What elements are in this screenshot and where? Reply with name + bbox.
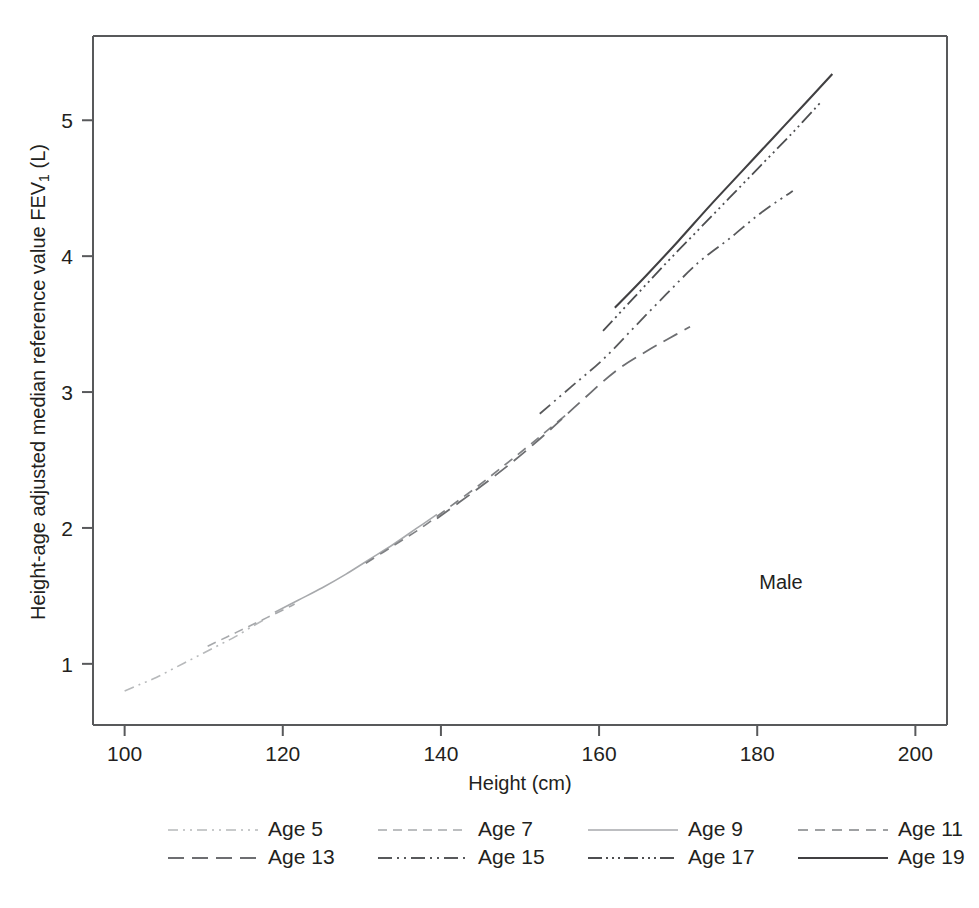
series-line-age-11 <box>366 414 568 563</box>
series-line-age-9 <box>275 514 437 612</box>
y-tick-label: 4 <box>61 245 73 268</box>
axis-ticks: 10012014016018020012345 <box>61 109 933 765</box>
figure-container: 10012014016018020012345 Male Age 5Age 7A… <box>0 0 979 908</box>
y-tick-label: 2 <box>61 517 73 540</box>
series-line-age-19 <box>615 74 832 308</box>
x-axis-title: Height (cm) <box>468 772 571 794</box>
legend-label-age-13: Age 13 <box>268 845 335 868</box>
x-tick-label: 100 <box>107 742 142 765</box>
y-axis-title: Height-age adjusted median reference val… <box>27 144 52 620</box>
legend-label-age-7: Age 7 <box>478 817 533 840</box>
series-line-age-7 <box>208 604 295 646</box>
annotation-sex-label: Male <box>759 571 802 593</box>
legend-label-age-15: Age 15 <box>478 845 545 868</box>
legend-label-age-19: Age 19 <box>898 845 965 868</box>
legend-label-age-17: Age 17 <box>688 845 755 868</box>
x-tick-label: 200 <box>898 742 933 765</box>
series-line-age-13 <box>437 327 690 519</box>
legend-label-age-11: Age 11 <box>898 817 963 840</box>
plot-annotations: Male <box>759 571 802 593</box>
y-tick-label: 5 <box>61 109 73 132</box>
plot-series <box>125 74 833 691</box>
x-tick-label: 180 <box>740 742 775 765</box>
plot-axes <box>93 36 947 725</box>
series-line-age-15 <box>540 191 793 414</box>
legend-label-age-9: Age 9 <box>688 817 743 840</box>
legend-label-age-5: Age 5 <box>268 817 323 840</box>
fev1-height-reference-chart: 10012014016018020012345 Male Age 5Age 7A… <box>0 0 979 908</box>
x-tick-label: 140 <box>423 742 458 765</box>
x-tick-label: 160 <box>582 742 617 765</box>
chart-legend: Age 5Age 7Age 9Age 11Age 13Age 15Age 17A… <box>168 817 965 868</box>
x-tick-label: 120 <box>265 742 300 765</box>
series-line-age-17 <box>603 103 820 331</box>
y-tick-label: 1 <box>61 653 73 676</box>
y-tick-label: 3 <box>61 381 73 404</box>
series-line-age-5 <box>125 620 263 691</box>
